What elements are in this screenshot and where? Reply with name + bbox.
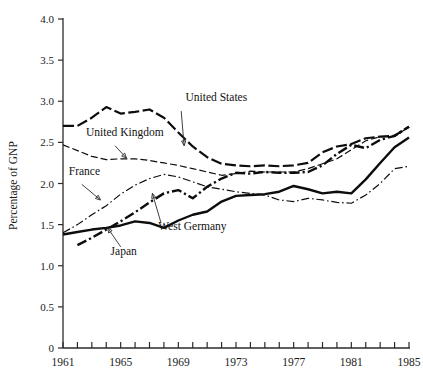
chart-figure: 00.51.01.52.02.53.03.54.0 19611965196919… [0,0,423,382]
y-axis-tick-label: 2.0 [40,178,54,190]
y-axis-tick-label: 3.5 [40,54,54,66]
x-axis-tick-label: 1969 [167,356,190,368]
series-line-france [63,166,409,233]
y-axis-tick-label: 1.0 [40,260,54,272]
series-label-france: France [69,165,100,177]
axes [58,18,410,348]
series-label-united-states: United States [186,91,248,103]
x-axis-tick-label: 1961 [52,356,75,368]
leader-line-france [82,184,101,200]
y-axis-tick-label: 4.0 [40,13,54,25]
x-axis-tick-labels: 1961196519691973197719811985 [52,356,421,368]
y-axis-tick-labels: 00.51.01.52.02.53.03.54.0 [40,13,54,354]
y-axis-tick-label: 0 [49,342,55,354]
y-axis-tick-label: 2.5 [40,136,54,148]
x-axis-tick-label: 1977 [282,356,305,368]
x-axis-tick-label: 1965 [109,356,132,368]
leader-line-united-kingdom [115,146,127,158]
leader-arrow-west-germany [152,193,156,198]
y-axis-tick-label: 0.5 [40,301,54,313]
series-label-united-kingdom: United Kingdom [86,126,164,139]
y-axis-title: Percentage of GNP [7,141,20,230]
x-axis-tick-label: 1981 [340,356,363,368]
y-axis-tick-label: 1.5 [40,219,54,231]
x-axis-tick-label: 1985 [398,356,421,368]
leader-line-united-states [181,111,184,146]
series-line-west-germany [63,137,409,234]
line-chart-svg: 00.51.01.52.02.53.03.54.0 19611965196919… [0,0,423,382]
y-axis-tick-label: 3.0 [40,95,54,107]
x-axis-tick-label: 1973 [225,356,248,368]
series-label-west-germany: West Germany [158,220,227,233]
leader-line-japan [108,228,121,247]
series-label-japan: Japan [111,245,137,258]
